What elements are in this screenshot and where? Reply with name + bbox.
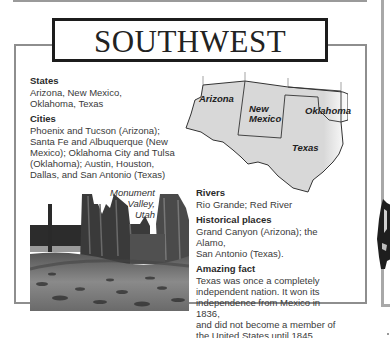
historical-places-line: Grand Canyon (Arizona); the Alamo, — [196, 226, 346, 248]
cities-section: Cities Phoenix and Tucson (Arizona); San… — [30, 113, 190, 180]
historical-places-line: San Antonio (Texas). — [196, 248, 346, 259]
map-graphic — [183, 72, 348, 197]
states-line: Oklahoma, Texas — [30, 98, 190, 109]
title-banner: SOUTHWEST — [52, 18, 328, 62]
amazing-fact-line: the United States until 1845. — [196, 330, 346, 338]
historical-places-heading: Historical places — [196, 214, 346, 226]
amazing-fact-heading: Amazing fact — [196, 263, 346, 275]
amazing-fact-section: Amazing fact Texas was once a completely… — [196, 263, 346, 338]
page-title: SOUTHWEST — [94, 26, 286, 57]
cities-line: (Oklahoma); Austin, Houston, — [30, 158, 190, 169]
map-label-texas: Texas — [292, 143, 319, 153]
cities-line: Santa Fe and Albuquerque (New — [30, 136, 190, 147]
amazing-fact-line: Texas was once a completely — [196, 275, 346, 286]
states-heading: States — [30, 75, 190, 87]
page-mark — [387, 333, 389, 335]
previous-panel-bottom-edge — [13, 0, 367, 2]
horse-figure-icon — [377, 199, 390, 274]
rivers-line: Rio Grande; Red River — [196, 199, 346, 210]
right-text-column: Rivers Rio Grande; Red River Historical … — [196, 187, 346, 338]
states-section: States Arizona, New Mexico, Oklahoma, Te… — [30, 75, 190, 109]
rivers-section: Rivers Rio Grande; Red River — [196, 187, 346, 210]
left-text-column: States Arizona, New Mexico, Oklahoma, Te… — [30, 75, 190, 184]
states-line: Arizona, New Mexico, — [30, 87, 190, 98]
caption-line: Monument — [109, 187, 155, 198]
cities-heading: Cities — [30, 113, 190, 125]
southwest-states-map: Arizona New Mexico Oklahoma Texas — [183, 72, 348, 197]
amazing-fact-line: and did not become a member of — [196, 319, 346, 330]
cities-line: Phoenix and Tucson (Arizona); — [30, 125, 190, 136]
cities-line: Dallas, and San Antonio (Texas) — [30, 169, 190, 180]
photo-caption: Monument Valley, Utah — [109, 187, 155, 220]
map-label-oklahoma: Oklahoma — [305, 106, 351, 116]
historical-places-section: Historical places Grand Canyon (Arizona)… — [196, 214, 346, 259]
caption-line: Valley, — [109, 198, 155, 209]
amazing-fact-line: independent nation. It won its — [196, 286, 346, 297]
adjacent-panel-figure-image — [377, 199, 390, 274]
caption-line: Utah — [109, 209, 155, 220]
rivers-heading: Rivers — [196, 187, 346, 199]
map-label-arizona: Arizona — [199, 94, 234, 104]
adjacent-panel-border-corner — [381, 304, 390, 307]
map-label-new-mexico-line2: Mexico — [249, 114, 281, 124]
amazing-fact-line: independence from Mexico in 1836, — [196, 297, 346, 319]
cities-line: Mexico); Oklahoma City and Tulsa — [30, 147, 190, 158]
